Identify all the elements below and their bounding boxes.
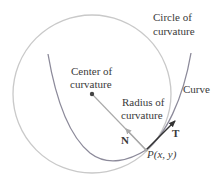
circle-of-curvature-label-line1: Circle of [153,11,192,23]
curvature-diagram: Circle of curvature Center of curvature … [0,0,223,185]
circle-of-curvature-label-line2: curvature [153,25,195,37]
center-of-curvature-dot [90,92,94,96]
normal-vector-arrow [126,129,146,150]
point-p-label: P(x, y) [146,148,177,161]
radius-of-curvature-label-line2: curvature [121,109,163,121]
tangent-vector-label: T [172,127,180,139]
curve-label: Curve [183,83,210,95]
center-of-curvature-label-line1: Center of [71,65,113,77]
point-p-coords: (x, y) [154,148,177,161]
tangent-vector-arrow [146,121,175,150]
center-of-curvature-label-line2: curvature [70,78,112,90]
radius-of-curvature-label-line1: Radius of [122,96,165,108]
normal-vector-label: N [121,134,129,146]
